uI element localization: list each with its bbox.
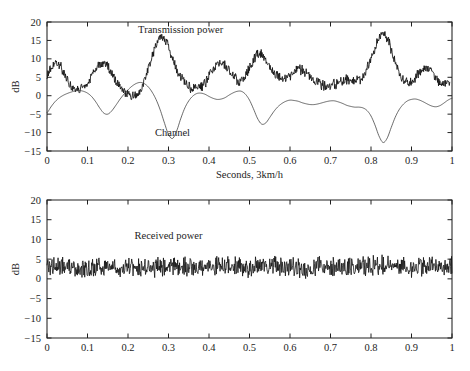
y-tick-label: −10 (25, 313, 41, 324)
x-axis-title: Seconds, 3km/h (216, 169, 284, 180)
two-panel-power-control-chart: −15−10−50510152000.10.20.30.40.50.60.70.… (0, 0, 470, 371)
y-tick-label: −10 (25, 127, 41, 138)
y-tick-label: 5 (36, 254, 41, 265)
x-tick-label: 0.1 (81, 342, 94, 353)
y-tick-label: 0 (36, 90, 41, 101)
axis-frame (47, 22, 452, 151)
y-axis-title: dB (10, 80, 21, 92)
top-panel-transmission-channel: −15−10−50510152000.10.20.30.40.50.60.70.… (10, 17, 455, 180)
x-tick-label: 0.6 (283, 342, 296, 353)
x-tick-label: 0.9 (405, 155, 418, 166)
y-tick-label: 20 (31, 17, 42, 28)
series-transmission-power-trace (47, 31, 450, 99)
series-received-power-trace (47, 255, 452, 279)
y-axis-title: dB (10, 263, 21, 275)
y-tick-label: −5 (30, 293, 41, 304)
y-tick-label: 15 (31, 214, 42, 225)
x-tick-label: 0.4 (202, 155, 216, 166)
x-tick-label: 0.4 (202, 342, 216, 353)
y-tick-label: −15 (25, 333, 41, 344)
y-tick-label: 15 (31, 35, 42, 46)
figure-container: −15−10−50510152000.10.20.30.40.50.60.70.… (0, 0, 470, 371)
x-tick-label: 0.5 (243, 342, 256, 353)
x-tick-label: 0.6 (283, 155, 296, 166)
x-tick-label: 0.2 (121, 342, 134, 353)
y-tick-label: 10 (31, 234, 42, 245)
x-tick-label: 0.5 (243, 155, 256, 166)
y-tick-label: −15 (25, 146, 41, 157)
x-tick-label: 0.3 (162, 342, 175, 353)
bottom-panel-received-power: −15−10−50510152000.10.20.30.40.50.60.70.… (10, 195, 455, 353)
series-channel-trace (47, 82, 452, 142)
y-tick-label: −5 (30, 109, 41, 120)
x-tick-label: 0 (44, 342, 49, 353)
x-tick-label: 0.8 (364, 155, 377, 166)
x-tick-label: 0.8 (364, 342, 377, 353)
x-tick-label: 1 (449, 155, 454, 166)
x-tick-label: 1 (449, 342, 454, 353)
y-tick-label: 20 (31, 195, 42, 206)
series-annotation-label: Channel (155, 127, 190, 138)
x-tick-label: 0.3 (162, 155, 175, 166)
x-tick-label: 0.1 (81, 155, 94, 166)
y-tick-label: 0 (36, 273, 41, 284)
y-tick-label: 5 (36, 72, 41, 83)
x-tick-label: 0.9 (405, 342, 418, 353)
x-tick-label: 0.7 (324, 155, 337, 166)
x-tick-label: 0.2 (121, 155, 134, 166)
x-tick-label: 0 (44, 155, 49, 166)
series-annotation-label: Transmission power (138, 24, 224, 35)
x-tick-label: 0.7 (324, 342, 337, 353)
series-annotation-label: Received power (135, 230, 203, 241)
y-tick-label: 10 (31, 53, 42, 64)
